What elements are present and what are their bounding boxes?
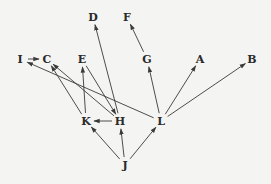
node-k: K — [81, 115, 91, 128]
node-b: B — [247, 53, 256, 66]
edge-g-to-f — [130, 24, 143, 52]
directed-graph-diagram: DFICEGABKHLJ — [0, 0, 271, 184]
node-l: L — [157, 115, 165, 128]
edge-h-to-d — [95, 25, 118, 114]
node-g: G — [142, 53, 151, 66]
edge-l-to-g — [149, 67, 159, 113]
node-i: I — [17, 53, 22, 66]
edge-j-to-h — [121, 129, 124, 157]
edges-layer — [27, 24, 245, 159]
node-f: F — [123, 11, 131, 24]
edge-k-to-c — [51, 66, 81, 114]
node-c: C — [43, 53, 52, 66]
edge-l-to-i — [27, 62, 153, 118]
edge-j-to-l — [130, 127, 156, 159]
edge-h-to-c — [53, 64, 114, 116]
edge-j-to-k — [91, 127, 119, 159]
node-a: A — [195, 53, 205, 66]
node-e: E — [78, 53, 86, 66]
node-h: H — [115, 115, 125, 128]
edge-l-to-a — [165, 66, 195, 114]
node-d: D — [88, 11, 98, 24]
edge-l-to-b — [168, 64, 246, 117]
node-j: J — [121, 159, 127, 172]
nodes-layer: DFICEGABKHLJ — [17, 11, 256, 172]
